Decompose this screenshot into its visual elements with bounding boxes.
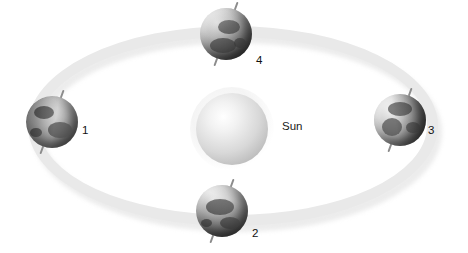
day-night-terminator <box>200 8 252 60</box>
sun <box>196 93 268 165</box>
earth-globe-icon <box>196 185 248 237</box>
earth-position-1: 1 <box>26 96 78 148</box>
earth-position-3: 3 <box>374 94 426 146</box>
earth-position-4: 4 <box>200 8 252 60</box>
earth-position-2: 2 <box>196 185 248 237</box>
day-night-terminator <box>26 96 78 148</box>
day-night-terminator <box>196 185 248 237</box>
earth-globe-icon <box>26 96 78 148</box>
earth-label-2: 2 <box>252 227 258 239</box>
earth-globe-icon <box>200 8 252 60</box>
earth-label-4: 4 <box>256 54 262 66</box>
day-night-terminator <box>374 94 426 146</box>
earth-label-3: 3 <box>428 124 434 136</box>
sun-sphere-icon <box>196 93 268 165</box>
earth-label-1: 1 <box>82 124 88 136</box>
earth-orbit-diagram: Sun 1 4 3 <box>0 0 468 253</box>
earth-globe-icon <box>374 94 426 146</box>
sun-label: Sun <box>282 120 302 132</box>
